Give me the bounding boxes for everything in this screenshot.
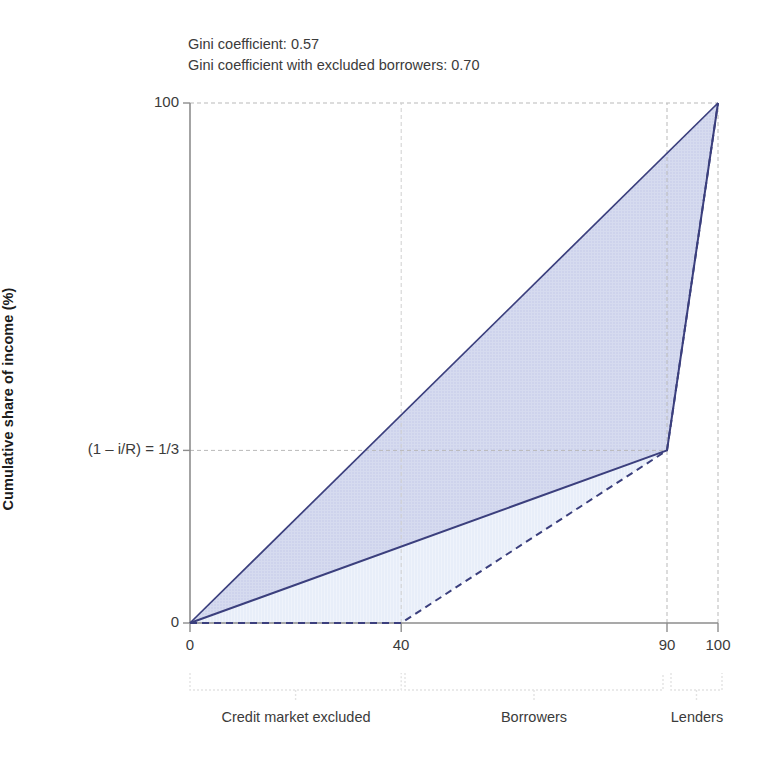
group-label-credit-market-excluded: Credit market excluded bbox=[196, 709, 396, 725]
y-tick-label-onethird: (1 – i/R) = 1/3 bbox=[88, 440, 179, 457]
bracket-lenders bbox=[671, 673, 722, 690]
group-label-borrowers: Borrowers bbox=[474, 709, 594, 725]
y-tick-label-0: 0 bbox=[171, 613, 179, 630]
x-tick-label-40: 40 bbox=[381, 636, 421, 653]
x-tick-label-90: 90 bbox=[647, 636, 687, 653]
bracket-credit-market-excluded bbox=[190, 673, 401, 690]
chart-canvas: Gini coefficient: 0.57 Gini coefficient … bbox=[0, 0, 768, 773]
x-tick-label-0: 0 bbox=[170, 636, 210, 653]
y-tick-label-100: 100 bbox=[154, 93, 179, 110]
lorenz-curve-plot bbox=[0, 0, 768, 773]
bracket-borrowers bbox=[405, 673, 663, 690]
group-label-lenders: Lenders bbox=[645, 709, 749, 725]
x-tick-label-100: 100 bbox=[693, 636, 743, 653]
